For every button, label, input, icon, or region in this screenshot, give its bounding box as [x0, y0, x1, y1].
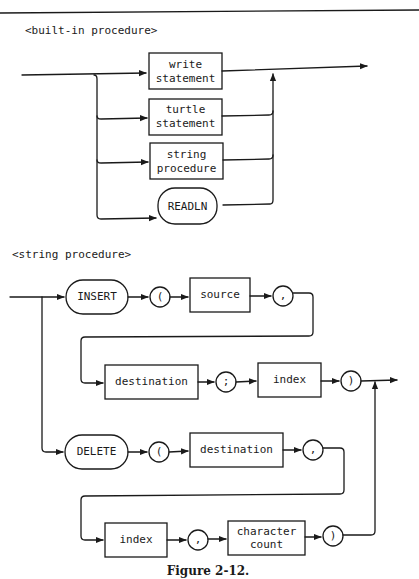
svg-text:character: character	[237, 525, 297, 538]
svg-text:count: count	[250, 538, 283, 551]
svg-text:): )	[330, 529, 337, 542]
symbol-open-paren: (	[149, 442, 169, 462]
svg-text:statement: statement	[156, 117, 216, 130]
svg-text:(: (	[156, 445, 163, 458]
svg-text:turtle: turtle	[166, 103, 206, 116]
svg-text:(: (	[157, 290, 164, 303]
svg-text:destination: destination	[115, 375, 188, 388]
symbol-semicolon: ;	[216, 372, 236, 392]
branch-to-readln	[94, 75, 156, 219]
nonterminal-turtle-statement: turtle statement	[149, 99, 222, 135]
nonterminal-index: index	[258, 363, 321, 397]
svg-text:INSERT: INSERT	[77, 290, 117, 303]
svg-text:index: index	[119, 533, 152, 546]
svg-text:statement: statement	[156, 72, 216, 85]
terminal-readln: READLN	[158, 188, 217, 224]
svg-text:,: ,	[310, 443, 317, 456]
rejoin-vertical	[343, 382, 375, 535]
terminal-delete: DELETE	[65, 435, 128, 469]
entry-line	[22, 73, 146, 75]
symbol-close-paren: )	[341, 371, 361, 391]
rejoin-turtle	[222, 111, 273, 116]
symbol-close-paren: )	[323, 526, 343, 546]
diagram-title-string-procedure: <string procedure>	[12, 248, 132, 261]
figure-caption: Figure 2-12.	[167, 564, 250, 578]
symbol-comma: ,	[273, 286, 293, 306]
rejoin-vertical	[223, 74, 273, 205]
branch-to-delete	[42, 297, 63, 452]
diagram-title-built-in-procedure: <built-in procedure>	[25, 24, 158, 37]
svg-text:READLN: READLN	[168, 200, 208, 213]
symbol-comma: ,	[303, 440, 323, 460]
nonterminal-character-count: character count	[228, 521, 305, 555]
svg-text:string: string	[167, 148, 207, 161]
symbol-open-paren: (	[150, 287, 170, 307]
exit-line	[222, 66, 367, 71]
nonterminal-write-statement: write statement	[149, 53, 222, 89]
branch-to-turtle	[97, 116, 147, 119]
top-rule	[0, 10, 419, 13]
svg-text:destination: destination	[200, 443, 273, 456]
connector	[236, 381, 256, 382]
nonterminal-destination: destination	[105, 365, 198, 399]
svg-text:,: ,	[195, 533, 202, 546]
nonterminal-index: index	[105, 523, 167, 557]
nonterminal-string-procedure: string procedure	[150, 143, 223, 179]
svg-text:;: ;	[223, 375, 230, 388]
svg-text:): )	[348, 374, 355, 387]
string-procedure-diagram: <string procedure> INSERT ( source ,	[10, 248, 397, 557]
svg-text:source: source	[200, 288, 240, 301]
built-in-procedure-diagram: <built-in procedure> write statement tur…	[22, 24, 367, 224]
branch-to-string	[97, 160, 148, 163]
svg-text:DELETE: DELETE	[77, 445, 117, 458]
nonterminal-source: source	[190, 278, 250, 312]
svg-text:procedure: procedure	[157, 162, 217, 175]
syntax-diagram-figure: <built-in procedure> write statement tur…	[0, 0, 419, 579]
terminal-insert: INSERT	[66, 280, 128, 314]
symbol-comma: ,	[188, 530, 208, 550]
svg-text:index: index	[273, 373, 306, 386]
connector	[169, 451, 188, 452]
svg-text:write: write	[169, 58, 202, 71]
rejoin-string	[223, 155, 273, 160]
nonterminal-destination: destination	[190, 433, 283, 467]
svg-text:,: ,	[280, 289, 287, 302]
exit-line	[361, 380, 397, 381]
